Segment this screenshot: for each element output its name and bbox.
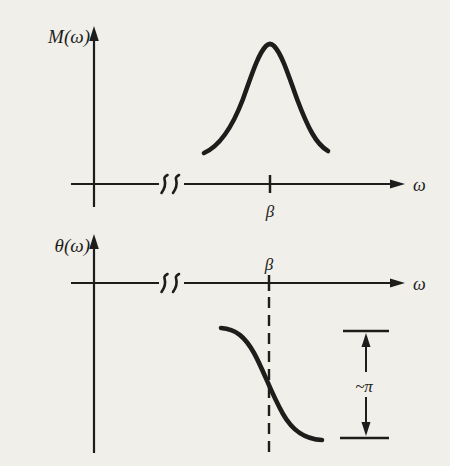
phase-drop-arrowhead-down-icon bbox=[362, 422, 371, 436]
amplitude-y-axis-arrowhead-icon bbox=[89, 26, 99, 41]
phase-drop-annotation: ~π bbox=[340, 331, 389, 438]
figure-canvas: M(ω) ω β θ(ω) ω β ~π bbox=[0, 0, 450, 466]
axis-break-icon bbox=[173, 274, 179, 292]
amplitude-beta-tick-label: β bbox=[265, 202, 275, 221]
phase-curve bbox=[221, 328, 322, 440]
phase-x-axis-label: ω bbox=[413, 274, 426, 294]
amplitude-plot: M(ω) ω β bbox=[47, 26, 426, 221]
phase-y-axis-arrowhead-icon bbox=[89, 234, 99, 249]
phase-drop-arrowhead-up-icon bbox=[362, 333, 371, 347]
amplitude-y-axis-label: M(ω) bbox=[47, 26, 90, 48]
amplitude-resonance-curve bbox=[204, 44, 328, 153]
phase-x-axis-arrowhead-icon bbox=[390, 279, 405, 288]
axis-break-icon bbox=[173, 175, 179, 193]
phase-y-axis-label: θ(ω) bbox=[55, 235, 90, 257]
phase-beta-tick-label: β bbox=[264, 255, 274, 274]
axis-break-icon bbox=[162, 274, 168, 292]
amplitude-x-axis-arrowhead-icon bbox=[390, 180, 405, 189]
phase-drop-label: ~π bbox=[355, 377, 373, 396]
axis-break-icon bbox=[162, 175, 168, 193]
resonance-figure: M(ω) ω β θ(ω) ω β ~π bbox=[0, 0, 450, 466]
amplitude-x-axis-label: ω bbox=[413, 175, 426, 195]
phase-plot: θ(ω) ω β ~π bbox=[55, 234, 426, 456]
